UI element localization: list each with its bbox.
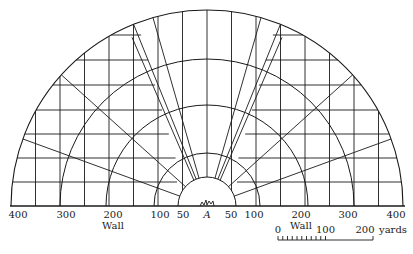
center-label: A: [202, 209, 210, 220]
radiating-line: [229, 75, 353, 187]
radiating-line: [23, 139, 180, 196]
radiating-line: [220, 37, 282, 180]
axis-label: 100: [150, 209, 169, 220]
axis-label: 200: [103, 209, 122, 220]
axis-label: 400: [8, 209, 27, 220]
radiating-line: [218, 24, 281, 179]
axis-label: 100: [244, 209, 263, 220]
scale-label: 200: [355, 224, 374, 235]
radiating-line: [132, 37, 194, 180]
range-arc: [178, 177, 236, 206]
axis-label: 50: [225, 209, 238, 220]
radiating-line: [134, 24, 197, 179]
axis-label: 300: [338, 209, 357, 220]
radiating-line: [234, 139, 391, 196]
wall-label-left: Wall: [102, 220, 124, 231]
scale-unit: yards: [378, 224, 407, 235]
fortification-diagram: 4003002001005050100200300400AWallWall010…: [0, 0, 413, 254]
center-emblem-icon: [200, 200, 214, 206]
radiating-line: [61, 75, 185, 187]
radiating-line: [153, 18, 199, 179]
axis-label: 400: [386, 209, 405, 220]
scale-label: 0: [275, 224, 281, 235]
scale-label: 100: [316, 224, 335, 235]
radiating-line: [215, 18, 261, 179]
axis-label: 50: [177, 209, 190, 220]
axis-label: 300: [56, 209, 75, 220]
axis-label: 200: [291, 209, 310, 220]
wall-label-right: Wall: [290, 220, 312, 231]
